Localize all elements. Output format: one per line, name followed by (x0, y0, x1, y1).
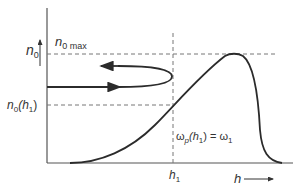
y-axis-label: n0 (26, 42, 39, 60)
ray-path-reflection (118, 66, 172, 87)
h1-label: h1 (169, 168, 181, 184)
n0max-label: n0 max (55, 34, 87, 51)
plasma-frequency-annotation: ωp(h1) = ω1 (176, 130, 233, 145)
x-axis-label: h (234, 171, 241, 186)
n0h1-label: n0(h1) (7, 98, 37, 114)
density-profile-curve (70, 54, 282, 163)
ionosphere-diagram: n0 n0 max n0(h1) ωp(h1) = ω1 h1 h (0, 0, 302, 189)
